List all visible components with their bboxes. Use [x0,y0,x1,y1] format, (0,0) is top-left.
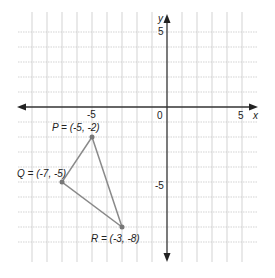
point-q-label: Q = (-7, -5) [17,168,66,179]
coordinate-plane: y x 0 -5 5 5 -5 P = (-5, -2) Q = (-7, -5… [0,0,275,278]
x-tick-label-neg5: -5 [87,109,96,120]
point-p-label: P = (-5, -2) [52,122,100,133]
x-axis-label: x [252,110,259,121]
point-r [120,225,125,230]
y-axis-label: y [157,13,164,24]
origin-label: 0 [157,110,163,121]
axes: y x 0 -5 5 5 -5 [17,13,259,262]
grid-lines [18,12,258,262]
point-q [60,180,65,185]
y-tick-label-neg5: -5 [155,180,164,191]
y-axis-down-arrow-icon [164,253,171,262]
x-axis-left-arrow-icon [17,104,26,111]
x-tick-label-5: 5 [238,110,244,121]
y-axis-up-arrow-icon [164,14,171,23]
y-tick-label-5: 5 [158,26,164,37]
point-r-label: R = (-3, -8) [91,233,140,244]
point-p [90,135,95,140]
